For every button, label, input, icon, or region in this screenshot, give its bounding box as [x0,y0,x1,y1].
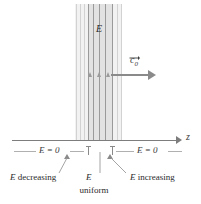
caption-center-symbol: E [86,172,92,182]
caption-left-text: decreasing [16,172,57,182]
figure-canvas: E c0 z E = 0 E = 0 E decreasing E unifor… [0,0,201,204]
caption-right: E increasing [130,172,175,182]
caption-center-text: uniform [74,185,114,195]
caption-left: E decreasing [10,172,56,182]
caption-center-symbol-row: E [86,172,92,182]
caption-right-text: increasing [136,172,175,182]
